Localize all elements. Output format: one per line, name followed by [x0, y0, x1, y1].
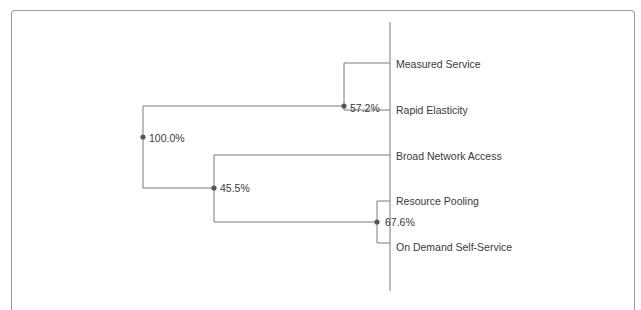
cluster-bracket-100 — [143, 106, 344, 188]
leaf-label-rapid-elasticity: Rapid Elasticity — [396, 104, 468, 116]
node-dot-45 — [211, 185, 216, 190]
leaf-label-broad-network-access: Broad Network Access — [396, 150, 502, 162]
node-dot-100 — [140, 134, 145, 139]
node-dot-67 — [374, 219, 379, 224]
leaf-label-resource-pooling: Resource Pooling — [396, 195, 479, 207]
node-dot-57 — [341, 103, 346, 108]
node-label-100: 100.0% — [149, 132, 185, 144]
node-label-45: 45.5% — [220, 182, 250, 194]
node-label-67: 67.6% — [385, 216, 415, 228]
leaf-label-on-demand-self-service: On Demand Self-Service — [396, 241, 512, 253]
node-label-57: 57.2% — [350, 102, 380, 114]
leaf-label-measured-service: Measured Service — [396, 58, 481, 70]
